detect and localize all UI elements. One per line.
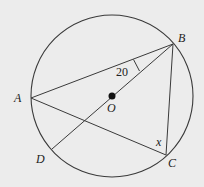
point-label-b: B [178, 32, 185, 44]
segment-ab [31, 44, 173, 98]
segment-ac [31, 98, 166, 155]
point-label-a: A [14, 92, 21, 104]
point-label-o: O [107, 102, 116, 114]
segment-bc [166, 44, 173, 155]
angle-label-b: 20 [116, 66, 128, 78]
angle-label-c: x [156, 136, 161, 148]
angle-arc-b [134, 60, 140, 72]
point-label-d: D [36, 153, 45, 165]
center-point-o [109, 93, 116, 100]
point-label-c: C [168, 157, 176, 169]
circle-diagram: A B C D O 20 x [0, 0, 204, 187]
